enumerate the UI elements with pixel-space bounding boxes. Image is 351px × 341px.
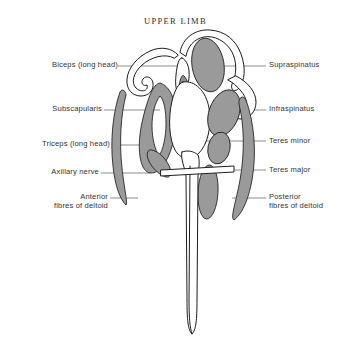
label-anterior-fibres-of-deltoid: Anterior fibres of deltoid <box>14 192 108 210</box>
label-biceps-long-head-line-1: Biceps (long head) <box>14 60 118 69</box>
label-infraspinatus-line-1: Infraspinatus <box>269 104 314 113</box>
label-triceps-long-head: Triceps (long head) <box>14 139 110 148</box>
anterior-deltoid-muscle <box>112 90 127 205</box>
label-supraspinatus: Supraspinatus <box>269 60 320 69</box>
label-anterior-deltoid-line-1: Anterior <box>14 192 108 201</box>
label-subscapularis: Subscapularis <box>14 104 102 113</box>
label-supraspinatus-line-1: Supraspinatus <box>269 60 320 69</box>
humeral-head <box>170 82 210 158</box>
label-teres-minor-line-1: Teres minor <box>269 136 310 145</box>
label-biceps-long-head: Biceps (long head) <box>14 60 118 69</box>
label-posterior-fibres-of-deltoid: Posterior fibres of deltoid <box>269 192 323 210</box>
label-posterior-deltoid-line-1: Posterior <box>269 192 323 201</box>
teres-minor-muscle <box>205 130 233 166</box>
label-teres-minor: Teres minor <box>269 136 310 145</box>
label-infraspinatus: Infraspinatus <box>269 104 314 113</box>
axillary-nerve-bar <box>161 166 234 176</box>
label-triceps-long-head-line-1: Triceps (long head) <box>14 139 110 148</box>
label-teres-major: Teres major <box>269 165 310 174</box>
label-subscapularis-line-1: Subscapularis <box>14 104 102 113</box>
label-axillary-nerve-line-1: Axillary nerve <box>14 167 99 176</box>
label-teres-major-line-1: Teres major <box>269 165 310 174</box>
figure-canvas: UPPER LIMB <box>0 0 351 341</box>
coracoid-outline <box>127 48 178 96</box>
label-posterior-deltoid-line-2: fibres of deltoid <box>269 201 323 210</box>
label-axillary-nerve: Axillary nerve <box>14 167 99 176</box>
label-anterior-deltoid-line-2: fibres of deltoid <box>14 201 108 210</box>
